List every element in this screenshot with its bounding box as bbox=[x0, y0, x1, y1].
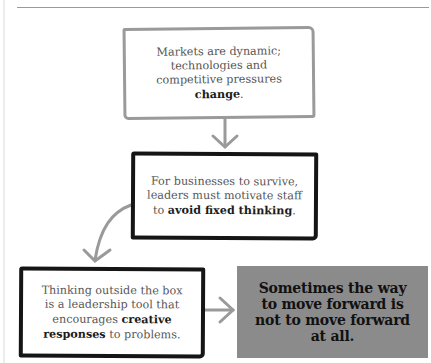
node-leaders-text: For businesses to survive, leaders must … bbox=[147, 174, 302, 218]
arrow-leaders-to-thinking bbox=[84, 205, 131, 261]
node-emphasis: avoid fixed thinking bbox=[168, 202, 293, 217]
conclusion-text: Sometimes the way to move forward is not… bbox=[255, 280, 410, 344]
node-thinking-outside-box: Thinking outside the box is a leadership… bbox=[19, 267, 205, 359]
node-conclusion: Sometimes the way to move forward is not… bbox=[237, 266, 428, 358]
node-markets-change: Markets are dynamic; technologies and co… bbox=[123, 26, 316, 120]
node-markets-text: Markets are dynamic; technologies and co… bbox=[136, 44, 303, 103]
node-text: Markets are dynamic; technologies and co… bbox=[156, 44, 282, 86]
arrow-markets-to-leaders bbox=[213, 119, 237, 147]
node-thinking-text: Thinking outside the box is a leadership… bbox=[37, 283, 187, 342]
node-text-end: . bbox=[240, 87, 244, 100]
arrow-thinking-to-conclusion bbox=[205, 298, 233, 322]
node-text-end: to problems. bbox=[106, 327, 181, 340]
node-leaders-motivate: For businesses to survive, leaders must … bbox=[131, 152, 318, 241]
node-emphasis: change bbox=[195, 86, 240, 100]
node-text-end: . bbox=[292, 204, 296, 217]
